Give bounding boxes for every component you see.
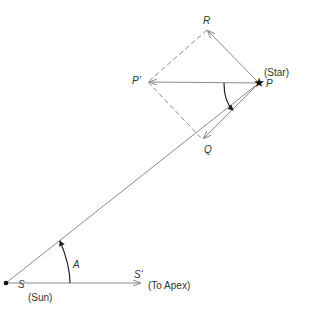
apex-diagram: ★ R P (Star) P' Q S (Sun) A S' (To Apex) xyxy=(0,0,313,312)
label-angle-a: A xyxy=(72,259,80,270)
sun-dot xyxy=(4,281,9,286)
label-s-prime: S' xyxy=(134,269,144,280)
label-p-prime: P' xyxy=(132,75,142,86)
angle-arc-p xyxy=(224,83,233,110)
label-sun: (Sun) xyxy=(28,292,52,303)
dashed-r-p-prime xyxy=(148,30,207,82)
label-s: S xyxy=(18,279,25,290)
sun-star-line xyxy=(6,83,259,283)
angle-arc-a xyxy=(60,241,70,283)
vector-pq xyxy=(204,83,259,138)
dashed-p-prime-q xyxy=(148,82,203,140)
label-to-apex: (To Apex) xyxy=(148,280,190,291)
label-r: R xyxy=(203,15,210,26)
vector-pr xyxy=(208,31,259,83)
label-star: (Star) xyxy=(264,67,289,78)
label-q: Q xyxy=(204,144,212,155)
label-p: P xyxy=(266,78,273,89)
vector-pp-prime xyxy=(150,82,259,83)
